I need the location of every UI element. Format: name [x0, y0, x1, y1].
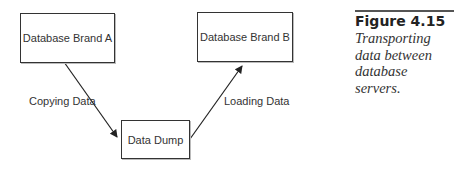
- edge-label-loading: Loading Data: [224, 95, 289, 107]
- node-database-brand-b: Database Brand B: [197, 12, 293, 62]
- node-label: Database Brand A: [23, 32, 112, 44]
- figure-caption: Transporting data between database serve…: [355, 30, 454, 96]
- node-label: Database Brand B: [200, 31, 290, 43]
- caption-rule: [355, 10, 454, 12]
- node-data-dump: Data Dump: [121, 120, 190, 159]
- figure-number: Figure 4.15: [355, 13, 445, 29]
- node-label: Data Dump: [128, 134, 184, 146]
- node-database-brand-a: Database Brand A: [20, 13, 115, 63]
- edge-label-copying: Copying Data: [29, 95, 96, 107]
